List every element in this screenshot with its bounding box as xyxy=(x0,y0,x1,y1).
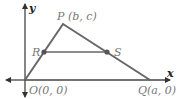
triangle-diagram: y x P (b, c) R S O(0, 0) Q(a, 0) xyxy=(0,0,190,99)
point-Q-label: Q(a, 0) xyxy=(138,84,176,97)
point-R xyxy=(41,49,46,54)
point-S-label: S xyxy=(114,46,122,59)
x-axis-label: x xyxy=(166,67,174,80)
point-R-label: R xyxy=(31,46,40,59)
point-O-label: O(0, 0) xyxy=(29,84,68,97)
y-axis-label: y xyxy=(28,2,37,15)
point-S xyxy=(104,49,109,54)
point-P-label: P (b, c) xyxy=(56,10,97,23)
